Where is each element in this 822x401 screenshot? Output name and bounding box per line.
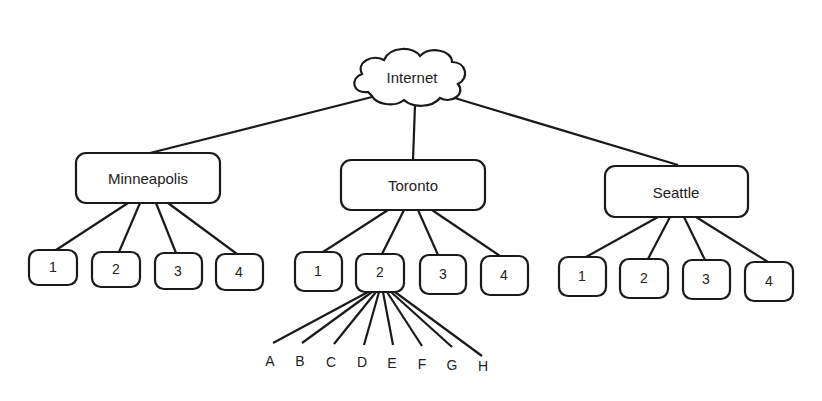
child-label: 2 <box>112 261 120 277</box>
leaf-label: E <box>387 355 396 371</box>
leaf-labels: A B C D E F G H <box>265 353 488 374</box>
child-label: 3 <box>174 263 182 279</box>
child-label: 1 <box>49 259 57 275</box>
site-label: Toronto <box>388 177 438 194</box>
child-label: 3 <box>439 266 447 282</box>
internet-label: Internet <box>387 69 439 86</box>
child-label: 4 <box>235 264 243 280</box>
link-internet-toronto <box>413 105 415 160</box>
leaf-label: H <box>478 358 488 374</box>
toronto-children: 1 2 3 4 <box>295 252 528 295</box>
network-diagram: Internet Minneapolis Toronto <box>0 0 822 401</box>
site-label: Minneapolis <box>108 170 188 187</box>
leaf-label: A <box>265 353 275 369</box>
link-internet-minneapolis <box>150 97 372 153</box>
site-minneapolis: Minneapolis <box>76 153 220 203</box>
leaf-label: C <box>326 354 336 370</box>
site-seattle: Seattle <box>605 166 748 217</box>
root-links <box>150 96 678 165</box>
leaf-label: F <box>418 356 427 372</box>
minneapolis-children: 1 2 3 4 <box>29 250 263 290</box>
site-toronto: Toronto <box>341 160 485 210</box>
link-internet-seattle <box>448 96 678 165</box>
child-label: 1 <box>578 268 586 284</box>
child-label: 1 <box>314 263 322 279</box>
child-label: 4 <box>765 273 773 289</box>
seattle-children: 1 2 3 4 <box>559 257 793 301</box>
child-label: 2 <box>376 264 384 280</box>
child-label: 3 <box>702 271 710 287</box>
leaf-label: B <box>295 353 304 369</box>
leaf-label: G <box>447 357 458 373</box>
site-label: Seattle <box>653 184 700 201</box>
child-label: 2 <box>640 270 648 286</box>
leaf-links <box>273 292 482 356</box>
leaf-label: D <box>357 354 367 370</box>
child-label: 4 <box>500 267 508 283</box>
